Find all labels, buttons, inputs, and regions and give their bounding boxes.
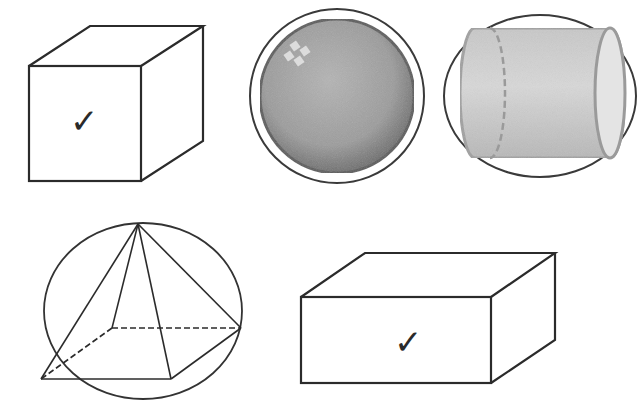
sphere-shape xyxy=(250,9,424,183)
cylinder-right-end xyxy=(595,28,625,158)
box-shape xyxy=(301,253,555,383)
pyramid-edge-front-right xyxy=(138,224,171,379)
cylinder-shape xyxy=(444,15,636,177)
box-checkmark-icon: ✓ xyxy=(394,325,423,359)
cube-top-face xyxy=(29,26,203,66)
sphere-ball xyxy=(260,19,414,173)
cube-checkmark-icon: ✓ xyxy=(70,104,99,138)
box-top-face xyxy=(301,253,555,297)
pyramid-shape xyxy=(41,223,242,399)
cube-side-face xyxy=(141,26,203,181)
pyramid-edge-right xyxy=(138,224,241,328)
solids-figure: ✓ ✓ xyxy=(0,0,638,405)
pyramid-edge-back xyxy=(112,224,138,328)
solids-drawing xyxy=(0,0,638,405)
pyramid-hidden-base-left xyxy=(41,328,112,379)
cube-shape xyxy=(29,26,203,181)
box-side-face xyxy=(491,253,555,383)
pyramid-edge-front-left xyxy=(41,224,138,379)
